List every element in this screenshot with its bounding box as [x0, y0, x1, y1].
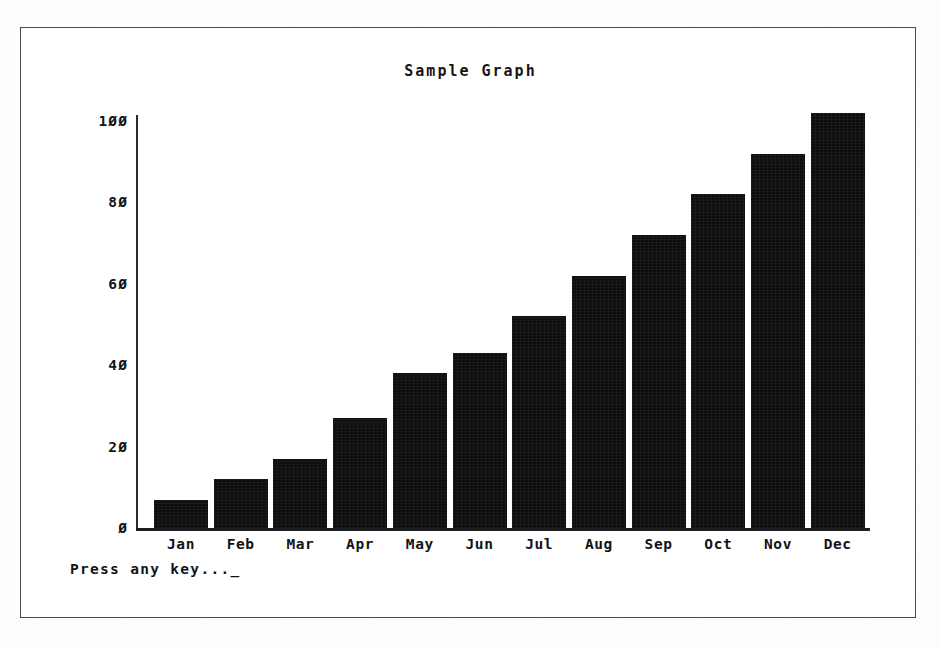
- x-tick-label-apr: Apr: [329, 536, 391, 552]
- y-tick-label-40: 4Ø: [68, 357, 128, 373]
- y-tick-label-20: 2Ø: [68, 439, 128, 455]
- x-tick-label-may: May: [389, 536, 451, 552]
- x-tick-label-oct: Oct: [687, 536, 749, 552]
- scanned-page: Sample Graph Ø2Ø4Ø6Ø8Ø1ØØ JanFebMarAprMa…: [0, 0, 941, 649]
- x-tick-label-feb: Feb: [210, 536, 272, 552]
- bar-aug: [572, 276, 626, 528]
- y-tick-label-80: 8Ø: [68, 194, 128, 210]
- bar-mar: [273, 459, 327, 528]
- bar-chart: Ø2Ø4Ø6Ø8Ø1ØØ JanFebMarAprMayJunJulAugSep…: [0, 0, 941, 649]
- x-axis: [136, 528, 870, 531]
- x-tick-label-jun: Jun: [449, 536, 511, 552]
- x-tick-label-jan: Jan: [150, 536, 212, 552]
- bar-jul: [512, 316, 566, 528]
- y-tick-label-60: 6Ø: [68, 276, 128, 292]
- bar-nov: [751, 154, 805, 528]
- bar-feb: [214, 479, 268, 528]
- bar-jun: [453, 353, 507, 528]
- x-tick-label-sep: Sep: [628, 536, 690, 552]
- bar-may: [393, 373, 447, 528]
- x-tick-label-dec: Dec: [807, 536, 869, 552]
- x-tick-label-nov: Nov: [747, 536, 809, 552]
- x-tick-label-aug: Aug: [568, 536, 630, 552]
- x-tick-label-jul: Jul: [508, 536, 570, 552]
- bar-dec: [811, 113, 865, 528]
- y-tick-label-0: Ø: [68, 520, 128, 536]
- bar-apr: [333, 418, 387, 528]
- bar-jan: [154, 500, 208, 528]
- press-any-key-prompt[interactable]: Press any key..._: [70, 561, 241, 577]
- bar-sep: [632, 235, 686, 528]
- y-axis: [136, 115, 138, 529]
- bar-oct: [691, 194, 745, 528]
- y-tick-label-100: 1ØØ: [68, 113, 128, 129]
- x-tick-label-mar: Mar: [269, 536, 331, 552]
